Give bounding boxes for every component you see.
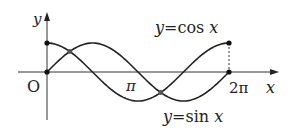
pi-tick-label: π bbox=[125, 77, 137, 95]
sin-label: y=sin x bbox=[162, 107, 223, 126]
y-axis-arrow-icon bbox=[44, 12, 50, 21]
trig-plot: y O π 2π x y=cos x y=sin x bbox=[0, 0, 304, 134]
intersection-1 bbox=[67, 49, 72, 54]
x-axis-arrow-icon bbox=[270, 69, 279, 75]
point-cos-end bbox=[226, 40, 231, 45]
point-sin-end bbox=[226, 69, 231, 74]
intersection-2 bbox=[158, 90, 163, 95]
x-axis-label: x bbox=[266, 78, 275, 97]
two-pi-tick-label: 2π bbox=[229, 79, 249, 97]
y-axis-label: y bbox=[32, 10, 42, 28]
cos-label: y=cos x bbox=[154, 18, 218, 37]
origin-label: O bbox=[27, 77, 40, 96]
point-cos-start bbox=[44, 40, 49, 45]
point-origin bbox=[44, 69, 49, 74]
